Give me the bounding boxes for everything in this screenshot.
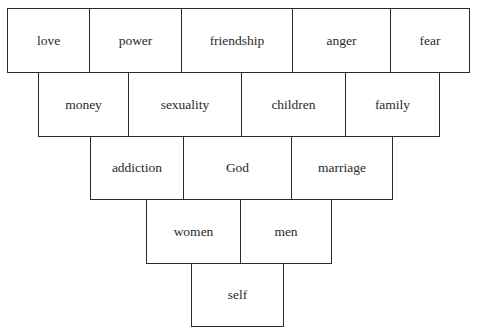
label: men [274, 224, 297, 240]
label: love [37, 33, 60, 49]
label: power [119, 33, 153, 49]
box-friendship: friendship [181, 8, 293, 73]
box-anger: anger [292, 8, 391, 73]
box-marriage: marriage [291, 136, 393, 200]
label: self [228, 287, 248, 303]
box-god: God [183, 136, 292, 200]
box-women: women [146, 199, 241, 264]
label: addiction [112, 160, 162, 176]
label: marriage [318, 160, 366, 176]
box-power: power [89, 8, 182, 73]
label: friendship [210, 33, 265, 49]
label: God [226, 160, 249, 176]
box-self: self [191, 263, 284, 327]
box-men: men [240, 199, 332, 264]
box-family: family [345, 72, 440, 137]
label: anger [327, 33, 357, 49]
label: family [375, 97, 410, 113]
box-money: money [38, 72, 129, 137]
box-fear: fear [390, 8, 470, 73]
label: women [174, 224, 214, 240]
label: money [65, 97, 102, 113]
label: sexuality [161, 97, 210, 113]
box-love: love [7, 8, 90, 73]
label: fear [420, 33, 441, 49]
box-sexuality: sexuality [128, 72, 242, 137]
box-addiction: addiction [90, 136, 184, 200]
label: children [271, 97, 315, 113]
box-children: children [241, 72, 346, 137]
